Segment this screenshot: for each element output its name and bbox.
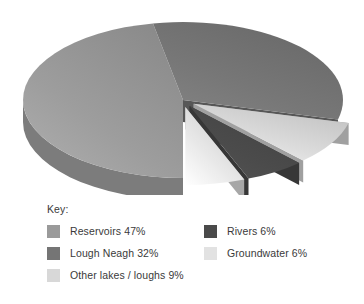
chart-legend: Key: Reservoirs 47% Lough Neagh 32% Othe… [47,203,347,299]
legend-label-groundwater: Groundwater 6% [227,247,307,259]
legend-item-groundwater[interactable]: Groundwater 6% [204,242,347,264]
legend-item-rivers[interactable]: Rivers 6% [204,220,347,242]
swatch-other-lakes [47,269,60,282]
swatch-rivers [204,225,217,238]
legend-item-other-lakes[interactable]: Other lakes / loughs 9% [47,264,202,286]
legend-item-reservoirs[interactable]: Reservoirs 47% [47,220,202,242]
legend-column-right: Rivers 6% Groundwater 6% [204,220,347,264]
legend-label-reservoirs: Reservoirs 47% [70,225,146,237]
legend-item-lough-neagh[interactable]: Lough Neagh 32% [47,242,202,264]
pie-chart-canvas [0,0,364,195]
legend-label-lough-neagh: Lough Neagh 32% [70,247,159,259]
legend-label-other-lakes: Other lakes / loughs 9% [70,269,184,281]
legend-label-rivers: Rivers 6% [227,225,276,237]
pie-chart [0,0,364,195]
legend-title: Key: [47,203,347,215]
legend-column-left: Reservoirs 47% Lough Neagh 32% Other lak… [47,220,202,286]
swatch-groundwater [204,247,217,260]
swatch-reservoirs [47,225,60,238]
swatch-lough-neagh [47,247,60,260]
